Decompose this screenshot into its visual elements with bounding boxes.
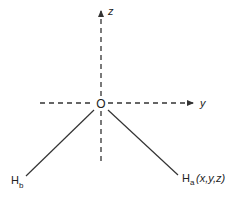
atom-hb-label: H b xyxy=(11,174,24,190)
svg-text:(x,y,z): (x,y,z) xyxy=(196,172,225,184)
z-axis-label: z xyxy=(107,5,114,17)
svg-text:b: b xyxy=(19,181,24,190)
y-axis-label: y xyxy=(199,97,207,109)
bond-ha xyxy=(108,110,178,175)
bond-hb xyxy=(26,110,94,176)
svg-text:H: H xyxy=(182,172,190,184)
svg-text:H: H xyxy=(11,174,19,186)
coordinate-diagram: O z y H b H a (x,y,z) xyxy=(0,0,231,198)
atom-ha-label: H a (x,y,z) xyxy=(182,172,225,187)
origin-label: O xyxy=(96,97,105,111)
svg-text:a: a xyxy=(190,178,195,187)
diagram-svg: O z y H b H a (x,y,z) xyxy=(0,0,231,198)
